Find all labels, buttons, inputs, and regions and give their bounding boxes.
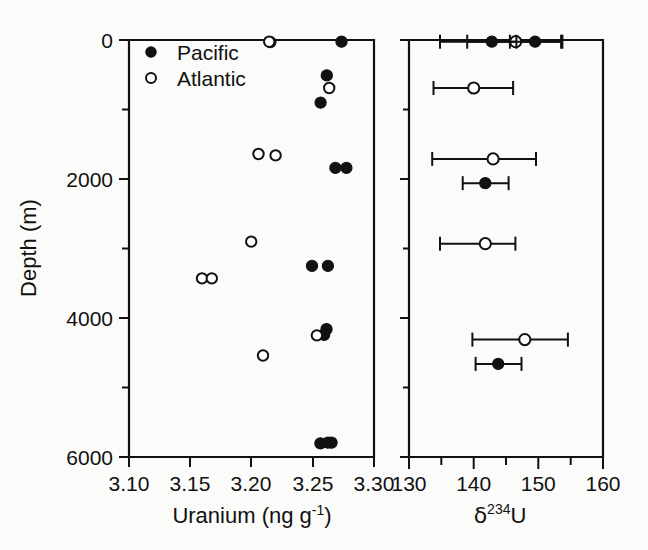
right-x-tick-label-3: 160 xyxy=(585,472,620,495)
left-panel: 0 2000 4000 6000 Depth (m) 3.10 3.15 3.2… xyxy=(16,29,394,528)
y-axis-title: Depth (m) xyxy=(16,199,41,297)
right-x-axis-title-tail: U xyxy=(510,503,526,528)
left-x-axis-title-main: Uranium (ng g xyxy=(172,503,311,528)
y-tick-label-6000: 6000 xyxy=(66,446,113,469)
legend-marker-atlantic xyxy=(146,73,156,83)
y-axis-ticks xyxy=(119,40,129,457)
data-point xyxy=(341,162,352,173)
data-point xyxy=(312,330,322,340)
left-x-tick-label-0: 3.10 xyxy=(109,472,150,495)
data-point xyxy=(488,153,499,164)
left-panel-frame xyxy=(129,40,374,457)
data-point xyxy=(253,149,263,159)
data-point xyxy=(468,82,479,93)
data-point xyxy=(246,236,256,246)
data-point xyxy=(258,350,268,360)
left-x-tick-label-1: 3.15 xyxy=(170,472,211,495)
left-x-tick-label-3: 3.25 xyxy=(293,472,334,495)
depth-profile-chart: 0 2000 4000 6000 Depth (m) 3.10 3.15 3.2… xyxy=(0,0,648,550)
right-x-axis-ticks xyxy=(409,457,603,469)
data-point xyxy=(321,70,332,81)
left-x-axis-title-sup: -1 xyxy=(312,502,325,518)
right-x-tick-label-1: 140 xyxy=(456,472,491,495)
right-panel: 130 140 150 160 δ234U xyxy=(391,35,620,528)
right-x-axis-title-sup: 234 xyxy=(487,501,511,517)
right-x-tick-label-0: 130 xyxy=(391,472,426,495)
legend-label-pacific: Pacific xyxy=(177,41,239,64)
left-x-tick-label-2: 3.20 xyxy=(231,472,272,495)
data-point xyxy=(270,150,280,160)
y-tick-label-2000: 2000 xyxy=(66,168,113,191)
data-point xyxy=(336,36,347,47)
right-x-tick-label-2: 150 xyxy=(521,472,556,495)
data-point xyxy=(530,36,541,47)
y-tick-label-4000: 4000 xyxy=(66,307,113,330)
right-panel-frame xyxy=(409,40,603,457)
data-point xyxy=(264,37,274,47)
right-series-atlantic xyxy=(432,35,568,347)
left-x-axis-title: Uranium (ng g-1) xyxy=(172,502,331,528)
data-point xyxy=(480,238,491,249)
left-x-axis-ticks xyxy=(129,457,374,467)
right-x-axis-title-delta: δ xyxy=(474,503,487,528)
data-point xyxy=(306,260,317,271)
data-point xyxy=(207,273,217,283)
data-point xyxy=(322,260,333,271)
left-x-axis-title-tail: ) xyxy=(324,503,331,528)
data-point xyxy=(330,162,341,173)
figure-root: 0 2000 4000 6000 Depth (m) 3.10 3.15 3.2… xyxy=(0,0,648,550)
left-x-tick-label-4: 3.30 xyxy=(354,472,395,495)
right-y-axis-ticks xyxy=(400,40,409,457)
data-point xyxy=(519,334,530,345)
data-point xyxy=(480,178,491,189)
data-point xyxy=(493,358,504,369)
y-tick-label-0: 0 xyxy=(101,29,113,52)
data-point xyxy=(486,36,497,47)
left-series-pacific xyxy=(265,36,352,449)
legend-marker-pacific xyxy=(146,47,156,57)
legend-label-atlantic: Atlantic xyxy=(177,67,246,90)
data-point xyxy=(324,83,334,93)
right-x-axis-title: δ234U xyxy=(474,501,527,528)
legend: Pacific Atlantic xyxy=(146,41,246,90)
data-point xyxy=(326,437,337,448)
data-point xyxy=(315,97,326,108)
